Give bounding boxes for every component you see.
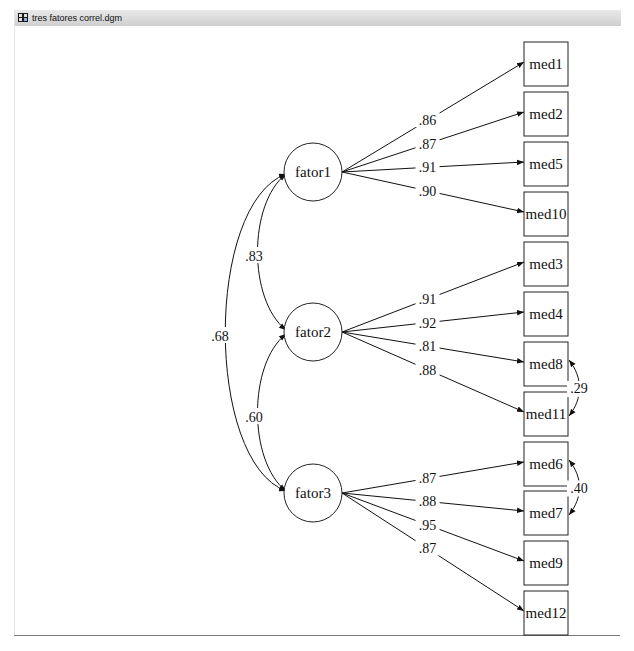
factor-label: fator2 [295,324,331,340]
indicator-label: med3 [529,256,562,272]
indicator-label: med6 [529,456,563,472]
indicator-label: med4 [529,306,563,322]
factor-label: fator3 [295,485,331,501]
loading-value: .88 [419,494,437,509]
sem-path-diagram: fator1fator2fator3med1med2med5med10med3m… [0,0,634,651]
factor-correlation-value: .60 [245,410,263,425]
loading-value: .90 [419,184,437,199]
loading-value: .91 [419,160,437,175]
error-correlation-value: .29 [570,381,588,396]
indicator-label: med11 [526,406,566,422]
loading-value: .86 [419,113,437,128]
loading-value: .87 [419,137,437,152]
factor-correlation-value: .68 [211,329,229,344]
indicator-label: med8 [529,356,562,372]
indicator-label: med5 [529,156,562,172]
indicator-label: med1 [529,56,562,72]
indicator-label: med10 [526,206,567,222]
error-correlation-value: .40 [570,481,588,496]
indicator-label: med9 [529,555,562,571]
loading-value: .91 [419,292,437,307]
factor-correlation-value: .83 [245,249,263,264]
indicator-label: med12 [526,605,567,621]
loading-value: .87 [419,541,437,556]
factor-correlation-arrow[interactable] [225,174,286,491]
loading-value: .92 [419,316,437,331]
loading-value: .81 [419,339,437,354]
loading-value: .95 [419,518,437,533]
loading-value: .87 [419,471,437,486]
indicator-label: med2 [529,106,562,122]
indicator-label: med7 [529,505,563,521]
loading-value: .88 [419,363,437,378]
factor-label: fator1 [295,164,331,180]
